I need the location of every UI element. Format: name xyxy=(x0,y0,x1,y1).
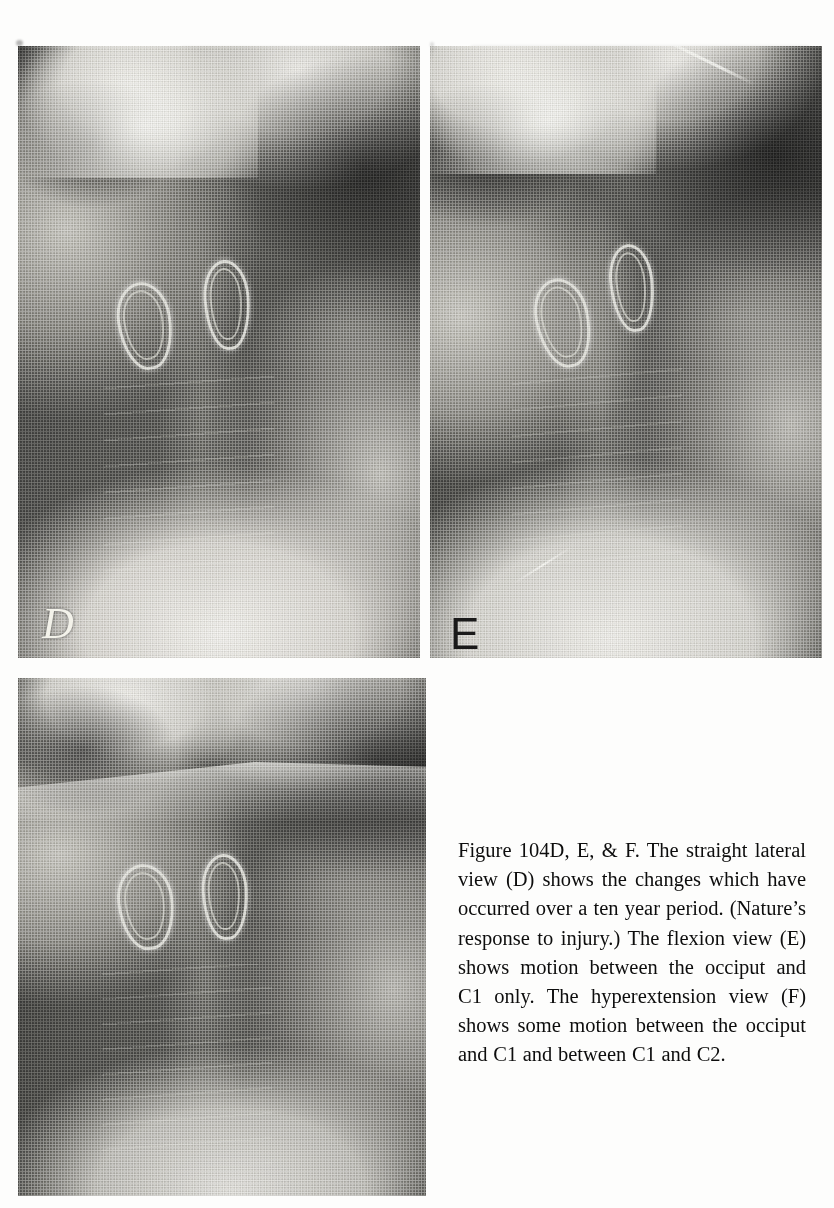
film-base-e xyxy=(430,46,822,658)
panel-letter-e: E xyxy=(450,612,479,656)
film-base-d xyxy=(18,46,420,658)
radiograph-panel-f xyxy=(18,678,426,1196)
figure-caption: Figure 104D, E, & F. The straight latera… xyxy=(458,836,806,1070)
film-base-f xyxy=(18,678,426,1196)
document-page: D E xyxy=(0,0,834,1208)
radiograph-panel-d: D xyxy=(18,46,420,658)
radiograph-panel-e: E xyxy=(430,46,822,658)
running-head xyxy=(0,0,834,9)
panel-letter-d: D xyxy=(42,602,74,646)
figure-caption-text: Figure 104D, E, & F. The straight latera… xyxy=(458,836,806,1070)
